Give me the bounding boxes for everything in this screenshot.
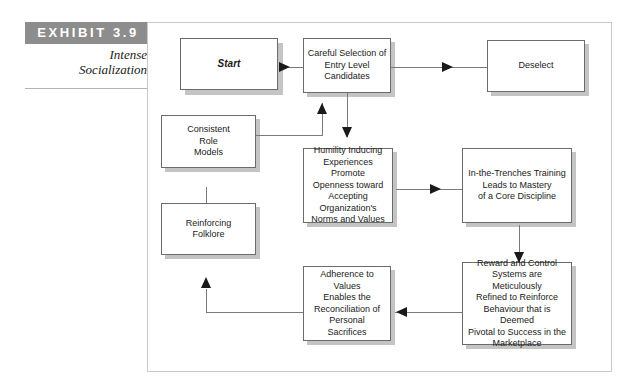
flow-node-in-the-trenches[interactable]: In-the-Trenches TrainingLeads to Mastery…: [462, 148, 572, 223]
exhibit-page: EXHIBIT 3.9 Intense Socialization Start: [0, 0, 630, 388]
exhibit-title-line-2: Socialization: [25, 62, 147, 77]
exhibit-title-line-1: Intense: [25, 47, 147, 62]
flow-node-start-label: Start: [215, 58, 244, 70]
flow-node-careful-selection[interactable]: Careful Selection ofEntry LevelCandidate…: [303, 38, 391, 93]
arrowhead-selection-humility: [342, 127, 352, 138]
flow-node-consistent-role-models-label: ConsistentRoleModels: [184, 124, 233, 159]
flow-node-adherence-to-values-label: Adherence to ValuesEnables theReconcilia…: [304, 269, 390, 338]
exhibit-title: Intense Socialization: [25, 47, 147, 77]
arrowhead-selection-deselect: [442, 62, 453, 72]
arrowhead-rolemodels-selection: [317, 103, 327, 114]
arrowhead-adherence-folklore: [201, 277, 211, 288]
flow-node-reward-and-control[interactable]: Reward and ControlSystems are Meticulous…: [462, 262, 572, 345]
flow-node-consistent-role-models[interactable]: ConsistentRoleModels: [161, 115, 256, 168]
connector-selection-deselect: [390, 67, 487, 68]
arrowhead-start-selection: [279, 62, 290, 72]
arrowhead-humility-trenches: [430, 184, 441, 194]
flow-node-reward-and-control-label: Reward and ControlSystems are Meticulous…: [463, 258, 571, 350]
flow-node-humility-inducing-label: Humility InducingExperiences PromoteOpen…: [304, 145, 392, 226]
flow-node-reinforcing-folklore-label: ReinforcingFolklore: [183, 218, 235, 241]
flow-node-deselect-label: Deselect: [515, 60, 556, 72]
flow-node-humility-inducing[interactable]: Humility InducingExperiences PromoteOpen…: [303, 148, 393, 223]
flow-node-in-the-trenches-label: In-the-Trenches TrainingLeads to Mastery…: [465, 168, 569, 203]
exhibit-number-banner: EXHIBIT 3.9: [25, 22, 147, 44]
connector-rolemodels-elbow: [256, 135, 323, 136]
flow-node-careful-selection-label: Careful Selection ofEntry LevelCandidate…: [305, 48, 390, 83]
flow-node-adherence-to-values[interactable]: Adherence to ValuesEnables theReconcilia…: [303, 266, 391, 341]
caption-divider: [25, 88, 147, 89]
connector-adherence-folklore: [206, 289, 207, 313]
arrowhead-reward-adherence: [396, 307, 407, 317]
flow-node-deselect[interactable]: Deselect: [487, 40, 585, 92]
flow-node-start[interactable]: Start: [180, 38, 278, 90]
connector-adherence-elbow: [206, 312, 307, 313]
flow-node-reinforcing-folklore[interactable]: ReinforcingFolklore: [161, 203, 256, 255]
arrowhead-trenches-reward: [514, 252, 524, 263]
